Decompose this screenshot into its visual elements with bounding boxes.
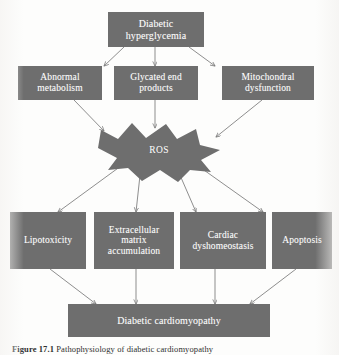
arrow-root-to-mitochondral-dysfunction bbox=[189, 47, 215, 66]
node-mitochondral-dysfunction-line2: dysfunction bbox=[242, 83, 295, 94]
arrow-ros-to-lipotoxicity bbox=[58, 163, 125, 212]
node-cardiac-line1: Cardiac bbox=[192, 230, 253, 241]
node-abnormal-metabolism[interactable]: Abnormal metabolism bbox=[18, 66, 102, 100]
node-lipotoxicity-line1: Lipotoxicity bbox=[24, 235, 72, 246]
node-extracellular-line2: matrix bbox=[108, 235, 160, 246]
figure-caption-text: Pathophysiology of diabetic cardiomyopat… bbox=[56, 344, 213, 354]
node-ros-label[interactable]: ROS bbox=[128, 145, 190, 155]
figure-caption-number: Figure 17.1 bbox=[12, 344, 54, 354]
node-mitochondral-dysfunction-line1: Mitochondral bbox=[242, 72, 295, 83]
node-abnormal-metabolism-line2: metabolism bbox=[37, 83, 82, 94]
ros-text: ROS bbox=[149, 145, 169, 155]
node-cardiac-dyshomeostasis[interactable]: Cardiac dyshomeostasis bbox=[180, 212, 266, 269]
arrow-lipotoxicity-to-outcome bbox=[50, 269, 96, 304]
node-root-line2: hyperglycemia bbox=[126, 30, 187, 41]
node-glycated-end-products-line1: Glycated end bbox=[130, 72, 182, 83]
node-apoptosis-line1: Apoptosis bbox=[282, 235, 321, 246]
node-lipotoxicity[interactable]: Lipotoxicity bbox=[10, 212, 86, 269]
arrow-abnormal-metabolism-to-ros bbox=[74, 100, 104, 131]
arrow-apoptosis-to-outcome bbox=[250, 269, 296, 304]
figure-caption: Figure 17.1 Pathophysiology of diabetic … bbox=[12, 344, 332, 354]
node-extracellular-line1: Extracellular bbox=[108, 225, 160, 236]
node-mitochondral-dysfunction[interactable]: Mitochondral dysfunction bbox=[222, 66, 314, 100]
flowchart-arrows bbox=[0, 0, 339, 355]
node-root-line1: Diabetic bbox=[126, 18, 187, 29]
node-diabetic-hyperglycemia[interactable]: Diabetic hyperglycemia bbox=[108, 12, 204, 47]
figure-diabetic-cardiomyopathy: Diabetic hyperglycemia Abnormal metaboli… bbox=[0, 0, 339, 355]
node-abnormal-metabolism-line1: Abnormal bbox=[37, 72, 82, 83]
node-outcome-label: Diabetic cardiomyopathy bbox=[117, 315, 221, 326]
node-glycated-end-products[interactable]: Glycated end products bbox=[114, 66, 198, 100]
node-extracellular-matrix-accumulation[interactable]: Extracellular matrix accumulation bbox=[94, 212, 174, 269]
node-glycated-end-products-line2: products bbox=[130, 83, 182, 94]
arrow-root-to-abnormal-metabolism bbox=[104, 47, 124, 66]
node-diabetic-cardiomyopathy[interactable]: Diabetic cardiomyopathy bbox=[68, 304, 270, 337]
node-extracellular-line3: accumulation bbox=[108, 246, 160, 257]
arrow-mitochondral-dysfunction-to-ros bbox=[216, 100, 262, 137]
node-cardiac-line2: dyshomeostasis bbox=[192, 241, 253, 252]
node-apoptosis[interactable]: Apoptosis bbox=[272, 212, 332, 269]
